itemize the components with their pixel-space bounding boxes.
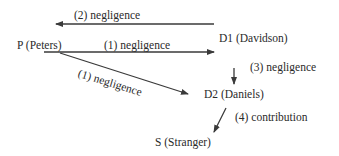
edge-label-d2-to-s: (4) contribution	[235, 112, 308, 124]
arrow-d2-to-s	[214, 108, 226, 132]
edge-label-d1-to-p: (2) negligence	[74, 10, 140, 22]
node-d1: D1 (Davidson)	[219, 33, 288, 45]
edge-label-d1-to-d2: (3) negligence	[250, 62, 316, 74]
edge-label-p-to-d1: (1) negligence	[104, 40, 170, 52]
node-d2: D2 (Daniels)	[204, 89, 264, 101]
node-p: P (Peters)	[17, 40, 62, 52]
node-s: S (Stranger)	[155, 137, 211, 149]
diagram-arrows	[0, 0, 339, 156]
